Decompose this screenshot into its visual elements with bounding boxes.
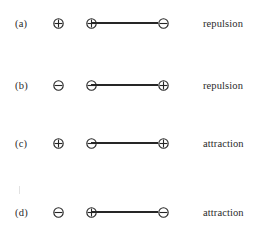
bonded-charge-pair <box>86 80 163 91</box>
positive-charge-icon <box>158 80 169 91</box>
bond-line <box>91 22 158 23</box>
bonded-charge-pair <box>86 207 163 218</box>
interaction-outcome-label: repulsion <box>203 18 243 29</box>
row-label: (c) <box>15 138 27 149</box>
bonded-charge-pair <box>86 138 163 149</box>
row-label: (b) <box>15 80 28 91</box>
positive-charge-icon <box>86 18 97 29</box>
positive-charge-icon <box>53 18 64 29</box>
row-label: (d) <box>15 207 28 218</box>
negative-charge-icon <box>53 80 64 91</box>
bond-line <box>91 142 158 143</box>
bonded-charge-pair <box>86 18 163 29</box>
interaction-outcome-label: attraction <box>203 138 244 149</box>
positive-charge-icon <box>158 138 169 149</box>
bond-line <box>91 84 158 85</box>
interaction-outcome-label: repulsion <box>203 80 243 91</box>
positive-charge-icon <box>53 138 64 149</box>
negative-charge-icon <box>86 80 97 91</box>
negative-charge-icon <box>158 18 169 29</box>
diagram-row: (b) repulsion <box>0 72 273 98</box>
negative-charge-icon <box>53 207 64 218</box>
interaction-outcome-label: attraction <box>203 207 244 218</box>
charge-interaction-diagram: (a) repulsion (b) rep <box>0 0 273 236</box>
scan-artifact <box>19 186 20 194</box>
bond-line <box>91 211 158 212</box>
diagram-row: (a) repulsion <box>0 10 273 36</box>
row-label: (a) <box>15 18 27 29</box>
negative-charge-icon <box>158 207 169 218</box>
diagram-row: (c) attraction <box>0 130 273 156</box>
diagram-row: (d) attraction <box>0 199 273 225</box>
positive-charge-icon <box>86 207 97 218</box>
negative-charge-icon <box>86 138 97 149</box>
